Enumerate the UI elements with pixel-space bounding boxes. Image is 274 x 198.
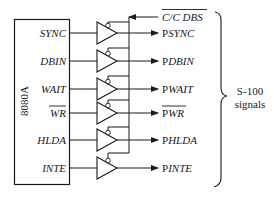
pin-hlda-label: HLDA — [36, 134, 66, 146]
group-label-line2: signals — [235, 98, 266, 110]
buffer-sync — [69, 22, 158, 44]
output-labels: PSYNC PDBIN PWAIT PWR PHLDA PINTE — [162, 27, 197, 174]
pin-inte-label: INTE — [41, 162, 66, 174]
pin-wr-label: WR — [50, 107, 66, 119]
chip-pin-labels: SYNC DBIN WAIT WR HLDA INTE — [36, 27, 67, 174]
buffer-hlda — [69, 127, 158, 151]
buffer-wait — [69, 76, 158, 100]
buffer-wr — [69, 100, 158, 124]
bus-buffer-diagram: 8080A SYNC DBIN WAIT WR HLDA INTE — [0, 0, 274, 198]
group-brace — [214, 12, 227, 187]
output-pinte: PINTE — [162, 162, 192, 174]
output-psync: PSYNC — [162, 27, 195, 39]
buffer-inte — [69, 153, 158, 179]
pin-dbin-label: DBIN — [39, 55, 66, 67]
output-pwr: PWR — [162, 107, 184, 119]
pin-sync-label: SYNC — [40, 27, 67, 39]
output-phlda: PHLDA — [162, 134, 197, 146]
output-pdbin: PDBIN — [162, 55, 194, 67]
cpu-name: 8080A — [18, 86, 30, 116]
buffer-dbin — [69, 48, 158, 72]
control-label: C/C DBS — [162, 11, 203, 23]
output-pwait: PWAIT — [162, 83, 194, 95]
pin-wait-label: WAIT — [41, 83, 67, 95]
group-label-line1: S-100 — [237, 85, 264, 97]
